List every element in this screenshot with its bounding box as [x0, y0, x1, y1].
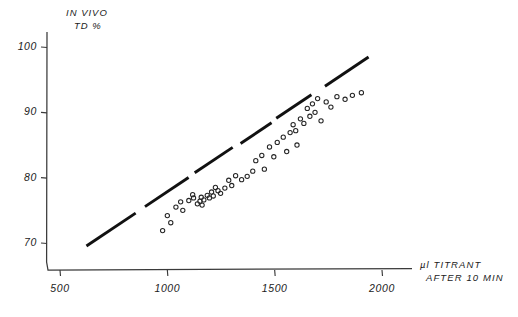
scatter-plot-figure: IN VIVO TD % µl TITRANT AFTER 10 MIN 708…	[0, 0, 518, 317]
data-point	[319, 119, 323, 123]
data-point	[335, 95, 339, 99]
data-point	[245, 174, 249, 178]
plot-canvas	[0, 0, 518, 317]
data-point	[298, 117, 302, 121]
data-point	[272, 155, 276, 159]
data-point	[233, 174, 237, 178]
data-points-layer	[160, 91, 363, 233]
data-point	[165, 213, 169, 217]
data-point	[195, 202, 199, 206]
data-point	[350, 93, 354, 97]
data-point	[230, 183, 234, 187]
data-point	[254, 159, 258, 163]
data-point	[211, 194, 215, 198]
data-point	[181, 208, 185, 212]
data-point	[178, 200, 182, 204]
data-point	[262, 167, 266, 171]
data-point	[200, 203, 204, 207]
data-point	[305, 106, 309, 110]
data-point	[174, 205, 178, 209]
data-point	[291, 123, 295, 127]
data-point	[160, 228, 164, 232]
data-point	[310, 102, 314, 106]
trend-line	[86, 57, 368, 246]
data-point	[251, 169, 255, 173]
data-point	[302, 121, 306, 125]
data-point	[227, 178, 231, 182]
data-point	[199, 195, 203, 199]
data-point	[315, 96, 319, 100]
data-point	[343, 97, 347, 101]
data-point	[308, 114, 312, 118]
data-point	[288, 130, 292, 134]
data-point	[169, 221, 173, 225]
data-point	[239, 177, 243, 181]
data-point	[187, 198, 191, 202]
data-point	[359, 91, 363, 95]
data-point	[275, 140, 279, 144]
data-point	[223, 186, 227, 190]
data-point	[294, 128, 298, 132]
data-point	[216, 189, 220, 193]
data-point	[295, 143, 299, 147]
data-point	[324, 100, 328, 104]
data-point	[313, 110, 317, 114]
data-point	[267, 145, 271, 149]
data-point	[218, 191, 222, 195]
data-point	[281, 135, 285, 139]
data-point	[260, 153, 264, 157]
data-point	[285, 149, 289, 153]
data-point	[329, 105, 333, 109]
data-point	[202, 198, 206, 202]
